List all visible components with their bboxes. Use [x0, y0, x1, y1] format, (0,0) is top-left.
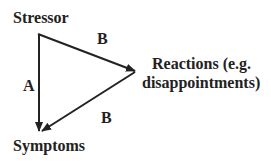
node-reactions-line2: disappointments): [142, 74, 260, 92]
edge-label-b-bottom: B: [101, 109, 112, 127]
edge-label-b-top: B: [97, 30, 108, 48]
diagram: Stressor Reactions (e.g. disappointments…: [0, 0, 271, 162]
node-reactions-line1: Reactions (e.g.: [152, 55, 251, 73]
node-symptoms: Symptoms: [13, 137, 85, 155]
arrow-stressor-to-reactions: [38, 34, 135, 71]
edge-label-a: A: [23, 77, 35, 95]
arrow-reactions-to-symptoms: [42, 72, 135, 131]
node-stressor: Stressor: [13, 9, 69, 27]
